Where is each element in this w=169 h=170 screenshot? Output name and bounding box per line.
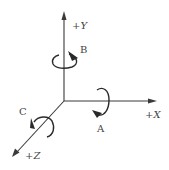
rotation-b-label: B xyxy=(80,45,87,55)
y-axis-label: +Y xyxy=(72,21,87,31)
y-axis xyxy=(62,11,67,101)
x-arrow-icon xyxy=(148,99,157,104)
x-axis-label: +X xyxy=(145,110,161,120)
x-axis xyxy=(64,99,157,104)
z-axis-label: +Z xyxy=(25,151,40,161)
rotation-c-label: C xyxy=(19,107,27,117)
y-arrow-icon xyxy=(62,11,67,20)
rotation-a-label: A xyxy=(97,124,104,134)
rotation-b-icon xyxy=(52,51,78,68)
rotation-a-icon xyxy=(92,88,109,118)
